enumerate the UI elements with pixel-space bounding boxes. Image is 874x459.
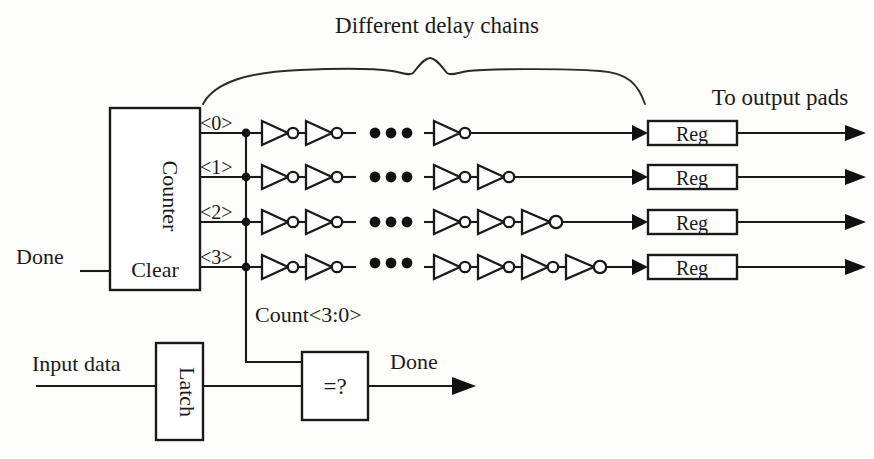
inverter-bubble-icon	[332, 217, 342, 227]
inverter-bubble-icon	[504, 172, 514, 182]
inverter-bubble-icon	[288, 172, 298, 182]
inverter-icon	[262, 121, 288, 145]
count-bus-wire	[246, 133, 302, 362]
delay-chain-row-1: Reg	[246, 165, 866, 190]
input-data-label: Input data	[32, 351, 121, 376]
inverter-bubble-icon	[504, 217, 514, 227]
inverter-bubble-icon	[332, 262, 342, 272]
inverter-bubble-icon	[288, 262, 298, 272]
inverter-icon	[262, 165, 288, 189]
inverter-bubble-icon	[288, 128, 298, 138]
inverter-icon	[306, 210, 332, 234]
arrowhead-icon	[845, 169, 866, 185]
inverter-bubble-icon	[460, 262, 470, 272]
arrowhead-icon	[632, 169, 648, 185]
inverter-icon	[434, 121, 460, 145]
count-bus-label: Count<3:0>	[255, 302, 362, 327]
arrowhead-icon	[632, 214, 648, 230]
figure-title: Different delay chains	[335, 13, 539, 38]
inverter-icon	[434, 255, 460, 279]
latch-label: Latch	[175, 367, 200, 417]
inverter-icon	[478, 165, 504, 189]
delay-chain-row-3: Reg	[246, 255, 866, 280]
arrowhead-icon	[845, 259, 866, 275]
delay-chain-circuit-diagram: Different delay chains Counter Clear Don…	[0, 0, 874, 459]
bus-tap-label-1: <1>	[200, 156, 233, 178]
inverter-icon	[306, 121, 332, 145]
inverter-icon	[478, 255, 504, 279]
arrowhead-icon	[845, 125, 866, 141]
to-output-pads-label: To output pads	[712, 85, 848, 110]
inverter-bubble-icon	[550, 216, 562, 228]
arrowhead-icon	[632, 125, 648, 141]
inverter-bubble-icon	[288, 217, 298, 227]
inverter-icon	[434, 210, 460, 234]
inverter-icon	[478, 210, 504, 234]
arrowhead-icon	[632, 259, 648, 275]
row1-ellipsis	[370, 172, 413, 183]
bus-tap-label-2: <2>	[200, 201, 233, 223]
inverter-icon	[262, 255, 288, 279]
arrowhead-icon	[452, 377, 476, 395]
row2-ellipsis	[370, 217, 413, 228]
delay-chain-row-0: Reg	[246, 121, 866, 146]
inverter-icon	[522, 255, 548, 279]
inverter-icon	[566, 255, 594, 279]
arrowhead-icon	[845, 214, 866, 230]
bus-tap-label-0: <0>	[200, 112, 233, 134]
inverter-bubble-icon	[594, 261, 606, 273]
row3-ellipsis	[370, 258, 413, 269]
inverter-bubble-icon	[460, 172, 470, 182]
inverter-bubble-icon	[332, 172, 342, 182]
inverter-icon	[434, 165, 460, 189]
delay-chain-row-2: Reg	[246, 210, 866, 235]
inverter-bubble-icon	[460, 217, 470, 227]
bus-tap-label-3: <3>	[200, 246, 233, 268]
register-label: Reg	[676, 123, 708, 146]
delay-chains-brace	[203, 58, 645, 104]
register-label: Reg	[676, 167, 708, 190]
inverter-icon	[522, 210, 550, 234]
inverter-icon	[262, 210, 288, 234]
inverter-bubble-icon	[460, 128, 470, 138]
done-output-label: Done	[390, 349, 438, 374]
inverter-icon	[306, 255, 332, 279]
register-label: Reg	[676, 257, 708, 280]
inverter-bubble-icon	[504, 262, 514, 272]
inverter-icon	[306, 165, 332, 189]
comparator-label: =?	[323, 374, 346, 399]
register-label: Reg	[676, 212, 708, 235]
done-input-label: Done	[16, 244, 64, 269]
counter-clear-label: Clear	[131, 257, 179, 282]
inverter-bubble-icon	[332, 128, 342, 138]
row0-ellipsis	[370, 128, 413, 139]
inverter-bubble-icon	[548, 262, 558, 272]
counter-label: Counter	[158, 161, 183, 233]
